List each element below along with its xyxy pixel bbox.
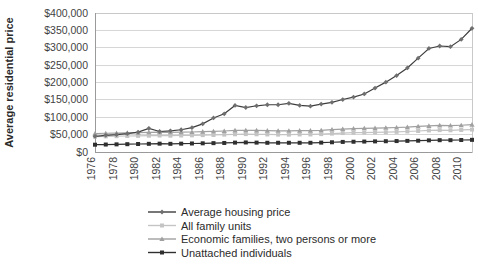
data-point-marker bbox=[319, 132, 323, 136]
x-tick-label: 2004 bbox=[387, 157, 399, 181]
data-point-marker bbox=[384, 139, 388, 143]
data-point-marker bbox=[276, 133, 280, 137]
x-tick-label: 1992 bbox=[257, 157, 269, 181]
data-point-marker bbox=[352, 131, 356, 135]
data-point-marker bbox=[168, 142, 172, 146]
data-point-marker bbox=[308, 141, 312, 145]
data-point-marker bbox=[330, 140, 334, 144]
data-point-marker bbox=[160, 210, 165, 215]
line-chart: $0$50,000$100,000$150,000$200,000$250,00… bbox=[0, 0, 478, 264]
x-tick-label: 2000 bbox=[344, 157, 356, 181]
data-point-marker bbox=[233, 141, 237, 145]
data-point-marker bbox=[427, 128, 431, 132]
y-tick-label: $50,000 bbox=[50, 128, 88, 140]
data-point-marker bbox=[308, 132, 312, 136]
y-axis-tick-labels: $0$50,000$100,000$150,000$200,000$250,00… bbox=[44, 7, 88, 158]
data-point-marker bbox=[158, 142, 162, 146]
x-tick-label: 1976 bbox=[85, 157, 97, 181]
x-tick-label: 2002 bbox=[365, 157, 377, 181]
data-point-marker bbox=[330, 132, 334, 136]
x-tick-label: 1978 bbox=[107, 157, 119, 181]
data-point-marker bbox=[448, 138, 452, 142]
data-point-marker bbox=[416, 129, 420, 133]
data-point-marker bbox=[384, 130, 388, 134]
x-tick-label: 2006 bbox=[408, 157, 420, 181]
data-point-marker bbox=[201, 141, 205, 145]
data-point-marker bbox=[136, 142, 140, 146]
legend-item[interactable]: Economic families, two persons or more bbox=[148, 233, 376, 245]
y-tick-label: $0 bbox=[76, 146, 88, 158]
data-point-marker bbox=[362, 140, 366, 144]
data-point-marker bbox=[459, 128, 463, 132]
data-point-marker bbox=[104, 143, 108, 147]
data-point-marker bbox=[276, 141, 280, 145]
data-point-marker bbox=[405, 139, 409, 143]
x-tick-label: 1980 bbox=[128, 157, 140, 181]
data-point-marker bbox=[298, 132, 302, 136]
data-point-marker bbox=[265, 141, 269, 145]
y-tick-label: $300,000 bbox=[44, 41, 88, 53]
x-tick-label: 2010 bbox=[451, 157, 463, 181]
data-point-marker bbox=[395, 139, 399, 143]
y-tick-label: $400,000 bbox=[44, 7, 88, 19]
data-point-marker bbox=[255, 141, 259, 145]
data-point-marker bbox=[362, 131, 366, 135]
y-tick-label: $200,000 bbox=[44, 76, 88, 88]
data-point-marker bbox=[160, 251, 164, 255]
data-point-marker bbox=[147, 142, 151, 146]
legend-item[interactable]: Average housing price bbox=[148, 206, 290, 218]
data-point-marker bbox=[427, 138, 431, 142]
data-point-marker bbox=[244, 132, 248, 136]
data-point-marker bbox=[395, 130, 399, 134]
data-point-marker bbox=[222, 141, 226, 145]
data-point-marker bbox=[373, 130, 377, 134]
x-tick-label: 1994 bbox=[279, 157, 291, 181]
legend-item[interactable]: Unattached individuals bbox=[148, 247, 292, 259]
data-point-marker bbox=[287, 141, 291, 145]
data-point-marker bbox=[352, 140, 356, 144]
data-point-marker bbox=[115, 142, 119, 146]
data-point-marker bbox=[244, 140, 248, 144]
data-point-marker bbox=[222, 133, 226, 137]
x-tick-label: 1988 bbox=[214, 157, 226, 181]
data-point-marker bbox=[470, 138, 474, 142]
legend-item[interactable]: All family units bbox=[148, 220, 252, 232]
x-tick-label: 1986 bbox=[193, 157, 205, 181]
data-point-marker bbox=[93, 143, 97, 147]
data-point-marker bbox=[190, 141, 194, 145]
data-point-marker bbox=[201, 133, 205, 137]
data-point-marker bbox=[233, 132, 237, 136]
x-tick-label: 1982 bbox=[150, 157, 162, 181]
legend-label: Unattached individuals bbox=[181, 247, 292, 259]
x-tick-label: 2008 bbox=[430, 157, 442, 181]
data-point-marker bbox=[211, 141, 215, 145]
data-point-marker bbox=[179, 142, 183, 146]
y-tick-label: $100,000 bbox=[44, 111, 88, 123]
data-point-marker bbox=[416, 139, 420, 143]
legend-label: All family units bbox=[181, 220, 252, 232]
data-point-marker bbox=[438, 138, 442, 142]
x-tick-label: 1984 bbox=[171, 157, 183, 181]
data-point-marker bbox=[160, 224, 164, 228]
data-point-marker bbox=[125, 142, 129, 146]
data-point-marker bbox=[319, 141, 323, 145]
data-point-marker bbox=[265, 132, 269, 136]
data-point-marker bbox=[438, 128, 442, 132]
data-point-marker bbox=[470, 128, 474, 132]
data-point-marker bbox=[405, 129, 409, 133]
y-tick-label: $350,000 bbox=[44, 24, 88, 36]
data-point-marker bbox=[459, 138, 463, 142]
data-point-marker bbox=[287, 133, 291, 137]
data-point-marker bbox=[255, 132, 259, 136]
chart-container: $0$50,000$100,000$150,000$200,000$250,00… bbox=[0, 0, 478, 264]
x-tick-label: 1998 bbox=[322, 157, 334, 181]
legend-label: Economic families, two persons or more bbox=[181, 233, 376, 245]
x-tick-label: 1996 bbox=[300, 157, 312, 181]
data-point-marker bbox=[448, 128, 452, 132]
data-point-marker bbox=[341, 131, 345, 135]
data-point-marker bbox=[298, 141, 302, 145]
x-axis-tick-labels: 1976197819801982198419861988199019921994… bbox=[85, 157, 463, 181]
legend: Average housing priceAll family unitsEco… bbox=[148, 206, 376, 259]
x-tick-label: 1990 bbox=[236, 157, 248, 181]
data-point-marker bbox=[211, 133, 215, 137]
